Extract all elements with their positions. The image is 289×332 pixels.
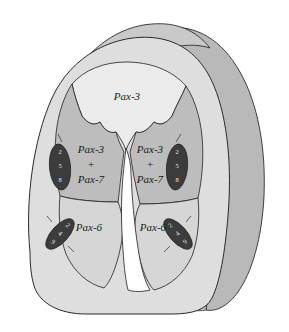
label-alar-left-line3: Pax-7 bbox=[77, 173, 105, 185]
nodule-upper-right-digit-1: 5 bbox=[175, 162, 178, 169]
figure-root: 2 5 8 2 5 8 2 4 9 bbox=[0, 0, 289, 332]
label-alar-right-line1: Pax-3 bbox=[136, 143, 164, 155]
nodule-upper-right-digit-0: 2 bbox=[175, 148, 178, 155]
nodule-upper-right-digit-2: 8 bbox=[175, 176, 178, 183]
label-alar-left-line1: Pax-3 bbox=[77, 143, 105, 155]
label-alar-left-plus: + bbox=[88, 158, 94, 170]
nodule-upper-left-digit-0: 2 bbox=[58, 148, 61, 155]
label-dorsal-roof: Pax-3 bbox=[113, 90, 141, 102]
label-alar-right-plus: + bbox=[147, 158, 153, 170]
nodule-upper-left-digit-1: 5 bbox=[58, 162, 61, 169]
neural-tube-diagram: 2 5 8 2 5 8 2 4 9 bbox=[0, 0, 289, 332]
label-alar-right-line3: Pax-7 bbox=[136, 173, 164, 185]
label-basal-left: Pax-6 bbox=[75, 221, 103, 233]
label-basal-right: Pax-6 bbox=[139, 221, 167, 233]
nodule-upper-left-digit-2: 8 bbox=[58, 176, 61, 183]
